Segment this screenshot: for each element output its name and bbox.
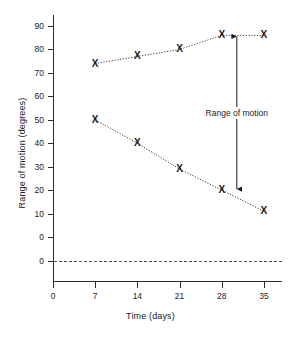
x-tick-label: 21 — [165, 291, 195, 301]
y-tick-label: 30 — [4, 162, 44, 172]
data-point-marker: X — [92, 59, 99, 69]
y-axis-line — [53, 15, 54, 281]
x-tick-label: 0 — [38, 291, 68, 301]
x-tick-mark — [53, 282, 54, 288]
data-point-marker: X — [134, 51, 141, 61]
y-tick-label: 20 — [4, 185, 44, 195]
y-tick-mark — [48, 120, 54, 121]
data-point-marker: X — [134, 138, 141, 148]
x-tick-mark — [264, 282, 265, 288]
range-of-motion-annotation-label: Range of motion — [204, 107, 270, 119]
y-tick-mark — [48, 26, 54, 27]
chart-figure: Range of motion (degrees) Time (days) 90… — [0, 0, 301, 337]
x-tick-mark — [95, 282, 96, 288]
y-tick-label: 10 — [4, 209, 44, 219]
data-point-marker: X — [92, 115, 99, 125]
baseline-dashed-line — [54, 261, 282, 262]
y-tick-mark — [48, 190, 54, 191]
data-point-marker: X — [176, 164, 183, 174]
x-axis-title: Time (days) — [0, 311, 301, 321]
baseline-label: 0 — [4, 256, 44, 266]
y-tick-label: 0 — [4, 232, 44, 242]
data-point-marker: X — [261, 206, 268, 216]
y-tick-label: 50 — [4, 115, 44, 125]
data-point-marker: X — [261, 30, 268, 40]
y-tick-mark — [48, 214, 54, 215]
y-tick-label: 90 — [4, 21, 44, 31]
y-tick-mark — [48, 73, 54, 74]
x-tick-label: 14 — [122, 291, 152, 301]
y-tick-mark — [48, 237, 54, 238]
y-tick-mark — [48, 96, 54, 97]
x-tick-mark — [222, 282, 223, 288]
y-tick-label: 70 — [4, 68, 44, 78]
x-tick-mark — [137, 282, 138, 288]
y-tick-label: 60 — [4, 91, 44, 101]
data-point-marker: X — [218, 185, 225, 195]
baseline-tick-mark — [48, 261, 54, 262]
x-tick-label: 35 — [249, 291, 279, 301]
y-tick-mark — [48, 167, 54, 168]
y-tick-mark — [48, 143, 54, 144]
y-tick-label: 80 — [4, 44, 44, 54]
plot-lines — [0, 0, 301, 337]
y-axis-title: Range of motion (degrees) — [17, 53, 27, 253]
x-tick-mark — [180, 282, 181, 288]
data-point-marker: X — [176, 44, 183, 54]
y-tick-mark — [48, 49, 54, 50]
data-point-marker: X — [218, 30, 225, 40]
y-tick-label: 40 — [4, 138, 44, 148]
x-tick-label: 7 — [80, 291, 110, 301]
x-tick-label: 28 — [207, 291, 237, 301]
x-axis-line — [53, 281, 282, 282]
